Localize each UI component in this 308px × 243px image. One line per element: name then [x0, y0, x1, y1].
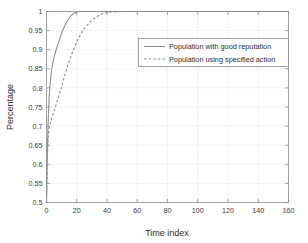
y-tick-label: 0.55 — [29, 179, 43, 188]
y-tick-label: 0.9 — [33, 45, 43, 54]
chart-legend: Population with good reputation Populati… — [139, 39, 289, 67]
y-tick-label: 0.95 — [29, 26, 43, 35]
legend-label-1: Population using specified action — [169, 55, 275, 64]
x-tick-label: 120 — [222, 206, 234, 215]
y-tick-label: 0.7 — [33, 122, 43, 131]
y-axis-title: Percentage — [5, 84, 15, 130]
x-axis-title: Time index — [145, 228, 189, 238]
x-tick-label: 160 — [283, 206, 295, 215]
x-tick-label: 100 — [192, 206, 204, 215]
x-tick-label: 80 — [164, 206, 172, 215]
chart-figure: 020406080100120140160 0.50.550.60.650.70… — [0, 0, 308, 243]
x-tick-label: 20 — [73, 206, 81, 215]
legend-label-0: Population with good reputation — [169, 42, 271, 51]
x-tick-label: 140 — [252, 206, 264, 215]
y-tick-label: 0.6 — [33, 160, 43, 169]
y-tick-label: 0.8 — [33, 84, 43, 93]
x-tick-label: 0 — [45, 206, 49, 215]
y-tick-label: 1 — [39, 7, 43, 16]
x-tick-label: 40 — [103, 206, 111, 215]
line-chart: 020406080100120140160 0.50.550.60.650.70… — [0, 0, 308, 243]
x-tick-label: 60 — [133, 206, 141, 215]
y-tick-label: 0.85 — [29, 64, 43, 73]
y-tick-label: 0.65 — [29, 141, 43, 150]
y-tick-label: 0.75 — [29, 103, 43, 112]
y-tick-label: 0.5 — [33, 198, 43, 207]
